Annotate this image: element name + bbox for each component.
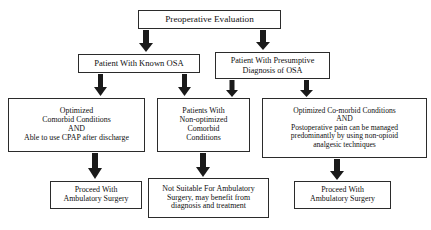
flowchart-canvas: Preoperative Evaluation Patient With Kno…: [0, 0, 431, 230]
node-label: Optimized Comorbid Conditions AND Able t…: [11, 107, 142, 142]
arrow-known-osa-to-nonoptimized: [178, 74, 191, 96]
node-label: Not Suitable For Ambulatory Surgery, may…: [151, 185, 266, 212]
node-label: Preoperative Evaluation: [141, 14, 278, 24]
node-label: Proceed With Ambulatory Surgery: [53, 186, 139, 204]
node-label: Proceed With Ambulatory Surgery: [297, 186, 388, 204]
arrow-optimizedright-to-proceed-right: [330, 159, 344, 180]
arrow-presumptive-to-optimized-right: [300, 80, 313, 97]
node-label: Patients With Non-optimized Comorbid Con…: [160, 107, 247, 142]
arrow-presumptive-to-nonoptimized: [226, 80, 238, 97]
node-label: Patient With Presumptive Diagnosis of OS…: [218, 56, 327, 74]
arrow-optimized-to-proceed-left: [88, 153, 102, 179]
arrow-known-osa-to-optimized: [94, 74, 107, 96]
node-optimized-comorbid-nonopioid: Optimized Co-morbid Conditions AND Posto…: [262, 98, 427, 158]
node-non-optimized-comorbid: Patients With Non-optimized Comorbid Con…: [157, 98, 250, 152]
node-label: Optimized Co-morbid Conditions AND Posto…: [265, 107, 424, 150]
node-proceed-with-ambulatory-surgery-left: Proceed With Ambulatory Surgery: [50, 181, 142, 209]
node-proceed-with-ambulatory-surgery-right: Proceed With Ambulatory Surgery: [294, 181, 391, 209]
node-patient-with-presumptive-osa: Patient With Presumptive Diagnosis of OS…: [215, 52, 330, 79]
node-preoperative-evaluation: Preoperative Evaluation: [138, 10, 281, 29]
arrow-nonoptimized-to-notsuitable: [196, 153, 210, 177]
node-patient-with-known-osa: Patient With Known OSA: [78, 54, 200, 73]
node-not-suitable-for-ambulatory-surgery: Not Suitable For Ambulatory Surgery, may…: [148, 178, 269, 218]
arrow-preop-to-presumptive-osa: [256, 30, 270, 50]
node-optimized-comorbid-cpap: Optimized Comorbid Conditions AND Able t…: [8, 98, 145, 152]
node-label: Patient With Known OSA: [81, 59, 197, 69]
arrow-preop-to-known-osa: [139, 30, 153, 52]
